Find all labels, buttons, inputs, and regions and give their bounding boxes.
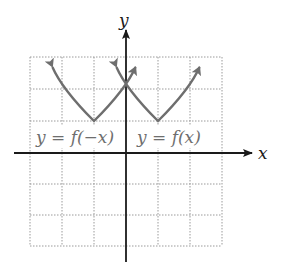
x-axis-label: x bbox=[258, 143, 268, 163]
graph: y = f(−x) y = f(x) x y bbox=[0, 0, 282, 266]
label-f-of-neg-x: y = f(−x) bbox=[35, 127, 114, 147]
y-axis-label: y bbox=[118, 10, 129, 30]
label-f-of-x: y = f(x) bbox=[136, 127, 201, 147]
